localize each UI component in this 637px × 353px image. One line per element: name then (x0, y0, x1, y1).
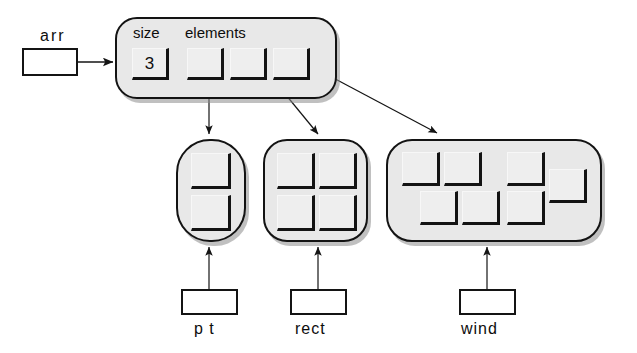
rect-box[interactable] (290, 289, 347, 315)
wind-cell-5[interactable] (462, 191, 500, 225)
diagram-canvas: arr size elements 3 p t rect (0, 0, 637, 353)
wind-cell-6[interactable] (507, 191, 545, 225)
arr-box[interactable] (22, 48, 78, 76)
element-slot-0[interactable] (187, 48, 224, 80)
rect-label: rect (295, 321, 326, 337)
size-value-cell[interactable]: 3 (132, 48, 169, 80)
object-rect[interactable] (263, 139, 368, 242)
element-slot-1[interactable] (230, 48, 267, 80)
pt-box[interactable] (181, 289, 238, 315)
wind-cell-2[interactable] (507, 152, 545, 186)
elements-field-label: elements (185, 25, 246, 40)
rect-cell-3[interactable] (319, 195, 357, 231)
wind-box[interactable] (459, 289, 516, 315)
array-object[interactable]: size elements 3 (115, 17, 337, 99)
object-wind[interactable] (386, 139, 602, 242)
pt-label: p t (194, 321, 215, 337)
wind-cell-4[interactable] (420, 191, 458, 225)
wind-cell-3[interactable] (549, 169, 587, 203)
pt-cell-1[interactable] (191, 195, 231, 231)
rect-cell-0[interactable] (277, 153, 315, 189)
object-pt[interactable] (176, 139, 246, 242)
wind-label: wind (461, 321, 498, 337)
wind-cell-1[interactable] (444, 152, 482, 186)
size-field-label: size (133, 25, 160, 40)
element-slot-2[interactable] (273, 48, 310, 80)
rect-cell-2[interactable] (277, 195, 315, 231)
wind-cell-0[interactable] (402, 152, 440, 186)
arr-label: arr (40, 28, 66, 44)
pt-cell-0[interactable] (191, 153, 231, 189)
rect-cell-1[interactable] (319, 153, 357, 189)
